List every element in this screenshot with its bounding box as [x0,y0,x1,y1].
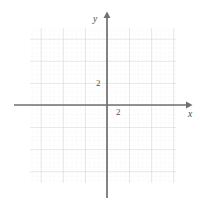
coordinate-grid-figure: y x 2 2 [0,0,200,202]
x-axis-arrowhead [186,102,193,109]
x-axis-tick-label-2: 2 [116,108,121,117]
screenshot-root: y x 2 2 [0,0,200,202]
y-axis-tick-label-2: 2 [96,79,101,88]
graph-canvas [0,0,200,202]
y-axis-label: y [93,15,97,25]
y-axis-arrowhead [104,12,111,19]
x-axis-label: x [188,110,192,120]
